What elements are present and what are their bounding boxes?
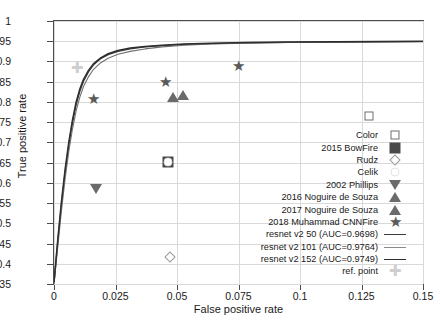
y-tick-label: 0.95: [0, 36, 11, 46]
legend-item-symbol: [384, 228, 406, 240]
legend-line-swatch: [384, 247, 406, 248]
x-tick-label: 0.125: [332, 291, 392, 301]
legend-item[interactable]: resnet v2 152 (AUC=0.9749): [256, 253, 406, 265]
y-tick-label: 0.85: [0, 77, 11, 87]
x-tick-mark: [362, 285, 363, 290]
y-tick-label: 0.5: [0, 218, 11, 228]
y-tick-mark: [47, 102, 53, 103]
legend-marker-swatch: [389, 192, 401, 202]
y-tick-label: 0.65: [0, 158, 11, 168]
roc-chart: ★★★✚ Color2015 BowFireRudzCelik2002 Phil…: [0, 0, 440, 323]
legend-item[interactable]: 2018 Muhammad CNNFire★: [256, 216, 406, 228]
y-tick-mark: [47, 264, 53, 265]
x-tick-mark: [239, 285, 240, 290]
grid-line-vertical: [423, 21, 424, 284]
y-tick-mark: [47, 223, 53, 224]
y-tick-mark: [47, 244, 53, 245]
y-tick-mark: [47, 284, 53, 285]
y-tick-label: 0.75: [0, 117, 11, 127]
legend-marker-swatch: ★: [389, 217, 402, 227]
legend-item[interactable]: Color: [256, 129, 406, 141]
data-point-marker: [90, 184, 102, 194]
legend-item[interactable]: 2015 BowFire: [256, 141, 406, 153]
data-point-marker: ★: [232, 61, 245, 71]
legend-item-label: 2017 Noguire de Souza: [281, 205, 384, 215]
y-tick-label: 0.9: [0, 56, 11, 66]
legend-item-symbol: [384, 142, 406, 154]
x-tick-label: 0.05: [147, 291, 207, 301]
legend-item-symbol: [384, 179, 406, 191]
y-tick-mark: [47, 163, 53, 164]
legend-marker-swatch: [389, 180, 401, 190]
y-tick-label: 0.55: [0, 198, 11, 208]
data-point-marker: ✚: [71, 63, 84, 73]
data-point-marker: [364, 112, 373, 121]
legend-item[interactable]: 2016 Noguire de Souza: [256, 191, 406, 203]
legend-item[interactable]: ref. point✚: [256, 265, 406, 277]
y-tick-label: 0.6: [0, 178, 11, 188]
legend-item[interactable]: resnet v2 101 (AUC=0.9764): [256, 241, 406, 253]
legend-item-label: resnet v2 152 (AUC=0.9749): [261, 254, 384, 264]
legend-item-label: 2002 Phillips: [326, 180, 384, 190]
plot-area: ★★★✚ Color2015 BowFireRudzCelik2002 Phil…: [53, 20, 424, 285]
y-tick-label: 0.7: [0, 137, 11, 147]
y-tick-label: 0.4: [0, 259, 11, 269]
x-tick-mark: [177, 285, 178, 290]
x-tick-label: 0.025: [86, 291, 146, 301]
y-axis-title: True positive rate: [16, 56, 28, 216]
y-tick-mark: [47, 142, 53, 143]
y-tick-mark: [47, 122, 53, 123]
legend-item-label: 2015 BowFire: [321, 143, 384, 153]
y-tick-label: 0.45: [0, 239, 11, 249]
legend-item-label: Celik: [358, 167, 384, 177]
data-point-marker: [164, 158, 173, 167]
y-tick-mark: [47, 203, 53, 204]
legend-item-label: resnet v2 50 (AUC=0.9698): [266, 229, 384, 239]
legend-item[interactable]: Celik: [256, 166, 406, 178]
x-axis-title: False positive rate: [53, 303, 424, 315]
y-tick-mark: [47, 21, 53, 22]
y-tick-label: 1: [0, 16, 11, 26]
chart-legend: Color2015 BowFireRudzCelik2002 Phillips2…: [256, 129, 406, 278]
legend-item-label: resnet v2 101 (AUC=0.9764): [261, 242, 384, 252]
legend-item[interactable]: 2017 Noguire de Souza: [256, 203, 406, 215]
legend-item-symbol: [384, 154, 406, 166]
legend-item-label: Color: [356, 130, 384, 140]
y-tick-mark: [47, 82, 53, 83]
x-tick-mark: [300, 285, 301, 290]
legend-marker-swatch: [390, 142, 401, 153]
legend-item[interactable]: 2002 Phillips: [256, 179, 406, 191]
legend-line-swatch: [384, 259, 406, 260]
y-tick-mark: [47, 183, 53, 184]
y-tick-mark: [47, 61, 53, 62]
x-tick-label: 0.1: [270, 291, 330, 301]
legend-line-swatch: [384, 234, 406, 235]
data-point-marker: ★: [159, 77, 172, 87]
x-tick-label: 0.075: [209, 291, 269, 301]
legend-item-symbol: [384, 166, 406, 178]
legend-marker-swatch: [391, 131, 400, 140]
legend-item[interactable]: Rudz: [256, 154, 406, 166]
legend-item-label: Rudz: [357, 155, 384, 165]
x-tick-mark: [423, 285, 424, 290]
y-tick-label: 0.35: [0, 279, 11, 289]
legend-item-label: 2016 Noguire de Souza: [281, 192, 384, 202]
data-point-marker: [177, 90, 189, 100]
legend-item-symbol: [384, 129, 406, 141]
legend-item-symbol: [384, 191, 406, 203]
x-tick-label: 0: [24, 291, 84, 301]
legend-cross-swatch: ✚: [389, 266, 402, 276]
x-tick-label: 0.15: [393, 291, 440, 301]
legend-item-symbol: ✚: [384, 265, 406, 277]
legend-marker-swatch: [391, 168, 400, 177]
legend-item[interactable]: resnet v2 50 (AUC=0.9698): [256, 228, 406, 240]
data-point-marker: ★: [87, 94, 100, 104]
legend-item-label: 2018 Muhammad CNNFire: [268, 217, 384, 227]
x-tick-mark: [116, 285, 117, 290]
legend-item-label: ref. point: [342, 266, 384, 276]
x-tick-mark: [54, 285, 55, 290]
legend-marker-swatch: [389, 154, 400, 165]
y-tick-label: 0.8: [0, 97, 11, 107]
legend-item-symbol: [384, 241, 406, 253]
legend-item-symbol: ★: [384, 216, 406, 228]
